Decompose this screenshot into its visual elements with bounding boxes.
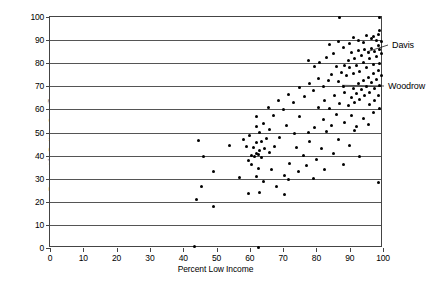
x-tick-80 [316, 248, 317, 252]
data-point [370, 47, 373, 50]
data-point [335, 113, 338, 116]
data-point [362, 61, 365, 64]
x-tick-60 [250, 248, 251, 252]
data-point [282, 108, 285, 111]
data-point [347, 59, 350, 62]
data-point [323, 168, 326, 171]
gridline-y-50 [50, 133, 381, 134]
y-tick-70 [46, 86, 50, 87]
data-point [258, 191, 261, 194]
data-point [270, 168, 273, 171]
data-point [328, 107, 331, 110]
data-point [350, 96, 353, 99]
y-tick-label-60: 60 [35, 105, 44, 114]
data-point [302, 154, 305, 157]
scatter-plot-figure: Percent in Bottom Quartile Percent Low I… [0, 0, 430, 285]
data-point [212, 205, 215, 208]
data-point [372, 72, 375, 75]
data-point [308, 140, 311, 143]
x-tick-label-20: 20 [112, 254, 121, 263]
data-point [272, 114, 275, 117]
data-point [377, 94, 380, 97]
data-point [200, 185, 203, 188]
data-point [257, 246, 260, 249]
data-point [373, 87, 376, 90]
data-point [378, 84, 381, 87]
y-tick-30 [46, 179, 50, 180]
data-point [353, 57, 356, 60]
data-point [353, 101, 356, 104]
data-point [337, 40, 340, 43]
data-point [373, 50, 376, 53]
data-point [193, 245, 196, 248]
x-tick-label-70: 70 [279, 254, 288, 263]
data-point [355, 92, 358, 95]
data-point [352, 87, 355, 90]
data-point [322, 85, 325, 88]
data-point [367, 51, 370, 54]
data-point [368, 91, 371, 94]
data-point [332, 152, 335, 155]
data-point [313, 65, 316, 68]
x-tick-label-40: 40 [179, 254, 188, 263]
x-tick-0 [50, 248, 51, 252]
data-point [278, 136, 281, 139]
data-point [340, 71, 343, 74]
data-point [293, 132, 296, 135]
data-point [253, 155, 256, 158]
data-point [350, 114, 353, 117]
data-point [362, 117, 365, 120]
data-point [352, 72, 355, 75]
data-point [375, 78, 378, 81]
data-point [375, 39, 378, 42]
y-tick-label-0: 0 [39, 244, 44, 253]
data-point [313, 126, 316, 129]
data-point [372, 63, 375, 66]
data-point [255, 141, 258, 144]
data-point [363, 94, 366, 97]
data-point [308, 82, 311, 85]
data-point [268, 128, 271, 131]
data-point [348, 66, 351, 69]
data-point [380, 74, 383, 77]
data-point [212, 170, 215, 173]
y-tick-20 [46, 202, 50, 203]
y-tick-label-100: 100 [30, 13, 44, 22]
data-point [378, 48, 381, 51]
data-point [352, 36, 355, 39]
data-point [273, 145, 276, 148]
data-point [258, 131, 261, 134]
data-point [287, 178, 290, 181]
data-point [360, 54, 363, 57]
x-tick-label-60: 60 [245, 254, 254, 263]
data-point [355, 125, 358, 128]
x-tick-50 [217, 248, 218, 252]
data-point [380, 40, 383, 43]
data-point [275, 185, 278, 188]
data-point [378, 29, 381, 32]
data-point [320, 147, 323, 150]
data-point [380, 52, 383, 55]
x-tick-30 [150, 248, 151, 252]
data-point [257, 153, 260, 156]
data-point [362, 41, 365, 44]
data-point [307, 131, 310, 134]
y-tick-label-10: 10 [35, 221, 44, 230]
x-tick-90 [350, 248, 351, 252]
data-point [252, 146, 255, 149]
data-point [375, 55, 378, 58]
data-point [355, 64, 358, 67]
data-point [347, 104, 350, 107]
data-point [267, 106, 270, 109]
y-tick-label-20: 20 [35, 198, 44, 207]
data-point [295, 146, 298, 149]
data-point [377, 181, 380, 184]
y-tick-label-30: 30 [35, 175, 44, 184]
y-tick-100 [46, 17, 50, 18]
x-axis-title: Percent Low Income [49, 264, 382, 274]
data-point [378, 16, 381, 19]
data-point [350, 51, 353, 54]
x-tick-label-10: 10 [79, 254, 88, 263]
data-point [257, 167, 260, 170]
data-point [377, 33, 380, 36]
